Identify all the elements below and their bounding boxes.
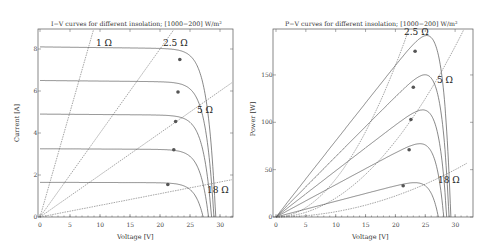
mpp-dot bbox=[407, 148, 411, 152]
x-tick-label: 20 bbox=[392, 221, 400, 228]
mpp-dot bbox=[412, 85, 416, 89]
y-tick-label: 150 bbox=[261, 71, 272, 78]
y-tick-label: 4 bbox=[33, 129, 37, 136]
x-tick-label: 15 bbox=[127, 221, 135, 228]
pv-label-5ohm: 5 Ω bbox=[437, 75, 453, 85]
iv-label-1ohm: 1 Ω bbox=[96, 38, 112, 48]
x-tick-label: 0 bbox=[38, 221, 42, 228]
y-tick-label: 100 bbox=[261, 118, 272, 125]
mpp-dot bbox=[178, 58, 182, 62]
pv-chart-title: P−V curves for different insolation; [10… bbox=[285, 20, 458, 27]
x-tick-label: 0 bbox=[274, 221, 278, 228]
pv-x-axis-label: Voltage [V] bbox=[352, 233, 388, 241]
load-line bbox=[276, 30, 409, 218]
insolation-curve bbox=[276, 75, 449, 217]
pv-y-axis-label: Power [W] bbox=[249, 102, 257, 136]
x-tick-label: 30 bbox=[452, 221, 460, 228]
y-tick-label: 8 bbox=[33, 45, 37, 52]
load-line bbox=[40, 83, 232, 217]
y-tick-label: 0 bbox=[268, 213, 272, 220]
x-tick-label: 5 bbox=[304, 221, 308, 228]
iv-label-2-5ohm: 2.5 Ω bbox=[163, 38, 188, 48]
load-line bbox=[40, 30, 174, 217]
insolation-curve bbox=[276, 110, 447, 217]
x-tick-label: 25 bbox=[187, 221, 195, 228]
insolation-curve bbox=[276, 183, 438, 217]
insolation-curve bbox=[276, 36, 451, 218]
iv-x-axis-label: Voltage [V] bbox=[117, 233, 153, 241]
mpp-dot bbox=[413, 49, 417, 53]
pv-label-18ohm: 18 Ω bbox=[438, 175, 460, 185]
load-line bbox=[276, 163, 467, 217]
mpp-dot bbox=[409, 118, 413, 122]
pv-chart-panel: P−V curves for different insolation; [10… bbox=[241, 0, 482, 250]
x-tick-label: 25 bbox=[422, 221, 430, 228]
pv-chart-plot bbox=[241, 0, 482, 250]
y-tick-label: 50 bbox=[265, 166, 273, 173]
iv-label-5ohm: 5 Ω bbox=[197, 105, 213, 115]
insolation-curve bbox=[40, 47, 216, 217]
y-tick-label: 0 bbox=[33, 213, 37, 220]
y-tick-label: 6 bbox=[33, 87, 37, 94]
mpp-dot bbox=[401, 184, 405, 188]
mpp-dot bbox=[176, 90, 180, 94]
x-tick-label: 20 bbox=[157, 221, 165, 228]
iv-chart-title: I−V curves for different insolation; [10… bbox=[51, 20, 222, 27]
insolation-curve bbox=[40, 114, 212, 217]
mpp-dot bbox=[174, 120, 178, 124]
iv-chart-panel: I−V curves for different insolation; [10… bbox=[0, 0, 241, 250]
mpp-dot bbox=[166, 183, 170, 187]
load-line bbox=[40, 30, 93, 217]
iv-y-axis-label: Current [A] bbox=[13, 104, 21, 142]
y-tick-label: 2 bbox=[33, 171, 37, 178]
x-tick-label: 10 bbox=[332, 221, 340, 228]
insolation-curve bbox=[276, 144, 444, 217]
pv-label-2-5ohm: 2.5 Ω bbox=[404, 27, 429, 37]
mpp-dot bbox=[172, 148, 176, 152]
x-tick-label: 30 bbox=[217, 221, 225, 228]
iv-label-18ohm: 18 Ω bbox=[207, 185, 229, 195]
x-tick-label: 5 bbox=[68, 221, 72, 228]
x-tick-label: 10 bbox=[97, 221, 105, 228]
x-tick-label: 15 bbox=[362, 221, 370, 228]
